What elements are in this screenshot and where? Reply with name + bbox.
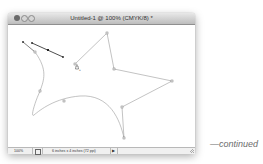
- work-path[interactable]: [33, 33, 172, 138]
- handle-point[interactable]: [62, 56, 64, 58]
- anchor-point[interactable]: [171, 80, 173, 82]
- anchor-point[interactable]: [47, 49, 49, 51]
- handle-point[interactable]: [31, 42, 33, 44]
- anchor-point[interactable]: [39, 90, 41, 92]
- zoom-button[interactable]: [28, 15, 35, 22]
- anchor-point[interactable]: [34, 51, 36, 53]
- title-bar[interactable]: Untitled-1 @ 100% (CMYK/8) *: [8, 13, 195, 25]
- divider: [42, 148, 43, 154]
- divider: [32, 148, 33, 154]
- resize-grip-icon[interactable]: [190, 149, 194, 153]
- document-canvas[interactable]: +: [8, 25, 195, 147]
- document-info: 6 inches x 4 inches (72 ppi): [52, 148, 96, 154]
- anchor-points[interactable]: [22, 32, 173, 139]
- anchor-point[interactable]: [106, 32, 108, 34]
- anchor-point[interactable]: [113, 68, 115, 70]
- pen-cursor-icon: +: [76, 64, 82, 72]
- minimize-button[interactable]: [21, 15, 28, 22]
- zoom-level-field[interactable]: 100%: [14, 148, 32, 154]
- anchor-point[interactable]: [63, 100, 65, 102]
- close-button[interactable]: [14, 15, 20, 21]
- svg-text:+: +: [79, 68, 81, 72]
- path-drawing[interactable]: +: [8, 25, 195, 147]
- status-menu-arrow-icon[interactable]: ▶: [112, 148, 116, 154]
- handle-point[interactable]: [22, 41, 24, 43]
- anchor-point[interactable]: [123, 137, 125, 139]
- document-window: Untitled-1 @ 100% (CMYK/8) *: [8, 13, 195, 153]
- anchor-point[interactable]: [121, 106, 123, 108]
- continued-caption: —continued: [210, 139, 258, 149]
- anchor-point[interactable]: [74, 63, 76, 65]
- status-bar: 100% 6 inches x 4 inches (72 ppi) ▶: [8, 147, 195, 154]
- document-icon[interactable]: [35, 149, 41, 155]
- divider: [110, 148, 111, 154]
- window-title: Untitled-1 @ 100% (CMYK/8) *: [38, 14, 185, 23]
- divider: [117, 148, 118, 154]
